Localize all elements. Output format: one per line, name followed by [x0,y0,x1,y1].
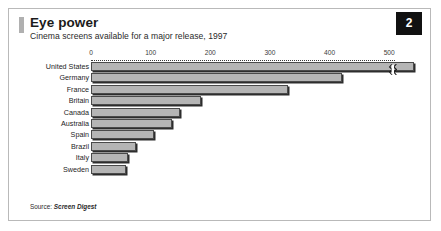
bar [91,165,126,174]
bar [91,130,154,139]
bar-row: Sweden [9,164,432,175]
x-tick-label: 400 [324,49,335,56]
bar-container [91,96,201,105]
figure-number-badge: 2 [396,12,422,35]
category-label: United States [9,61,89,71]
bar [91,153,128,162]
x-tick-label: 0 [89,49,93,56]
source-note: Source: Screen Digest [30,203,96,210]
x-axis-ticks: 0100200300400500 [9,49,432,61]
page-title: Eye power [30,15,98,30]
bar-row: Italy [9,152,432,163]
category-label: Germany [9,72,89,82]
bar [91,96,201,105]
bar-row: Australia [9,118,432,129]
category-label: Australia [9,118,89,128]
x-tick-label: 100 [145,49,156,56]
figure-header: Eye power Cinema screens available for a… [9,9,430,49]
bar-container [91,130,154,139]
bar-container [91,85,288,94]
category-label: Brazil [9,141,89,151]
bar [91,108,180,117]
x-tick-label: 300 [264,49,275,56]
bar-container [91,73,342,82]
bar-rows: United StatesGermanyFranceBritainCanadaA… [9,61,432,175]
category-label: Italy [9,152,89,162]
bar-container [91,153,128,162]
bar [91,62,414,71]
axis-break-icon [388,61,397,72]
bar [91,85,288,94]
category-label: Canada [9,107,89,117]
bar-row: Britain [9,95,432,106]
bar-row: Canada [9,107,432,118]
bar-row: United States [9,61,432,72]
bar [91,119,172,128]
bar-row: Brazil [9,141,432,152]
category-label: Sweden [9,164,89,174]
source-lead-label: Source: [30,203,54,210]
x-tick-label: 500 [384,49,395,56]
bar-row: Germany [9,72,432,83]
category-label: Spain [9,129,89,139]
source-name-label: Screen Digest [54,203,97,210]
bar-container [91,119,172,128]
bar-row: France [9,84,432,95]
bar-row: Spain [9,129,432,140]
bar-container [91,108,180,117]
bar-container [91,142,136,151]
category-label: Britain [9,95,89,105]
category-label: France [9,84,89,94]
figure-panel: Eye power Cinema screens available for a… [8,8,431,221]
title-accent-bar [19,17,24,33]
x-tick-label: 200 [205,49,216,56]
bar-container [91,62,414,71]
bar-chart: 0100200300400500 United StatesGermanyFra… [9,49,432,184]
bar-container [91,165,126,174]
figure-subtitle: Cinema screens available for a major rel… [30,31,227,42]
bar [91,73,342,82]
bar [91,142,136,151]
